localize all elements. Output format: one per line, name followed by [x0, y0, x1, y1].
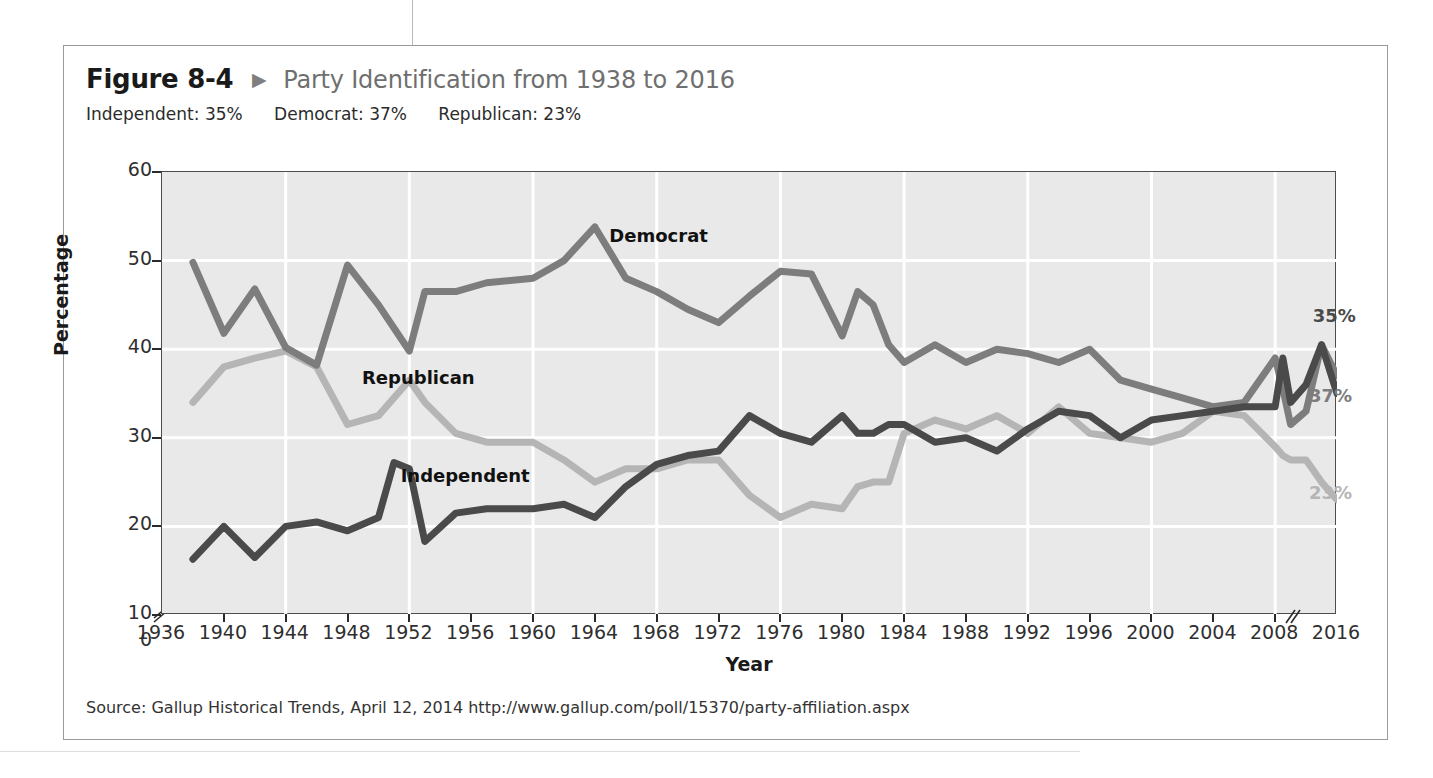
x-tick-label-1976: 1976 — [747, 621, 811, 643]
y-tick-mark-40 — [152, 348, 161, 350]
y-tick-label-10: 10 — [112, 601, 152, 623]
x-tick-label-1956: 1956 — [438, 621, 502, 643]
y-tick-label-30: 30 — [112, 424, 152, 446]
x-tick-label-2008: 2008 — [1242, 621, 1306, 643]
x-tick-label-1968: 1968 — [624, 621, 688, 643]
x-tick-label-2000: 2000 — [1118, 621, 1182, 643]
series-label-independent: Independent — [401, 465, 530, 486]
y-tick-mark-30 — [152, 437, 161, 439]
y-tick-label-40: 40 — [112, 335, 152, 357]
plot-frame — [161, 171, 1336, 614]
series-label-democrat: Democrat — [609, 225, 708, 246]
chart-area: Percentage 1020304050600 193619401944194… — [64, 46, 1389, 741]
x-tick-label-2004: 2004 — [1180, 621, 1244, 643]
y-axis-tick-labels: 1020304050600 — [100, 171, 152, 614]
x-axis-tick-labels: 1936194019441948195219561960196419681972… — [161, 621, 1337, 647]
x-tick-label-1936: 1936 — [129, 621, 193, 643]
y-tick-mark-50 — [152, 260, 161, 262]
y-tick-label-20: 20 — [112, 512, 152, 534]
end-label-37pct: 37% — [1309, 385, 1352, 406]
y-tick-label-60: 60 — [112, 158, 152, 180]
x-tick-label-1944: 1944 — [253, 621, 317, 643]
x-tick-label-1988: 1988 — [933, 621, 997, 643]
page-gutter-rule — [412, 0, 413, 46]
series-label-republican: Republican — [362, 367, 475, 388]
x-axis-title: Year — [161, 653, 1337, 675]
page-divider-rule — [0, 751, 1080, 752]
x-tick-label-1960: 1960 — [500, 621, 564, 643]
figure-container: Figure 8-4 ▶ Party Identification from 1… — [63, 45, 1388, 740]
x-tick-label-1984: 1984 — [871, 621, 935, 643]
x-tick-label-1940: 1940 — [191, 621, 255, 643]
x-tick-label-1992: 1992 — [995, 621, 1059, 643]
y-tick-mark-20 — [152, 525, 161, 527]
end-label-23pct: 23% — [1309, 482, 1352, 503]
y-axis-title: Percentage — [50, 234, 72, 356]
y-tick-label-50: 50 — [112, 247, 152, 269]
end-label-35pct: 35% — [1313, 305, 1356, 326]
series-line-democrat — [193, 227, 1337, 425]
x-tick-label-1972: 1972 — [686, 621, 750, 643]
plot-lines — [162, 172, 1337, 615]
x-tick-label-1980: 1980 — [809, 621, 873, 643]
x-tick-label-1964: 1964 — [562, 621, 626, 643]
x-tick-label-1952: 1952 — [376, 621, 440, 643]
x-tick-label-2016: 2016 — [1304, 621, 1368, 643]
source-note: Source: Gallup Historical Trends, April … — [86, 698, 910, 717]
x-tick-label-1996: 1996 — [1057, 621, 1121, 643]
x-tick-label-1948: 1948 — [315, 621, 379, 643]
y-tick-mark-60 — [152, 171, 161, 173]
